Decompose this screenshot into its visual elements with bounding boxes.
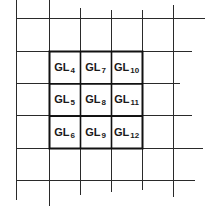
cell-subscript: 12: [130, 131, 139, 140]
cell-gl6: GL6: [49, 116, 80, 148]
cell-subscript: 7: [101, 66, 105, 75]
cell-gl8: GL8: [80, 83, 111, 115]
cell-base: GL: [114, 126, 129, 138]
cell-subscript: 9: [101, 131, 105, 140]
cell-subscript: 8: [101, 98, 105, 107]
cell-subscript: 10: [130, 66, 139, 75]
cell-base: GL: [85, 93, 100, 105]
cell-base: GL: [85, 61, 100, 73]
cell-subscript: 6: [70, 131, 74, 140]
cell-gl4: GL4: [49, 51, 80, 83]
cell-gl12: GL12: [111, 116, 142, 148]
cell-base: GL: [85, 126, 100, 138]
cell-base: GL: [54, 93, 69, 105]
cell-subscript: 5: [70, 98, 74, 107]
cell-base: GL: [54, 61, 69, 73]
cell-base: GL: [114, 61, 129, 73]
cell-gl11: GL11: [111, 83, 142, 115]
cell-base: GL: [114, 93, 129, 105]
grid-diagram: GL4 GL7 GL10 GL5 GL8 GL11 GL6 GL9 GL12: [0, 0, 216, 216]
cell-subscript: 4: [70, 66, 74, 75]
cell-gl9: GL9: [80, 116, 111, 148]
cell-gl10: GL10: [111, 51, 142, 83]
cell-base: GL: [54, 126, 69, 138]
cell-gl7: GL7: [80, 51, 111, 83]
cell-subscript: 11: [130, 98, 138, 107]
cell-gl5: GL5: [49, 83, 80, 115]
